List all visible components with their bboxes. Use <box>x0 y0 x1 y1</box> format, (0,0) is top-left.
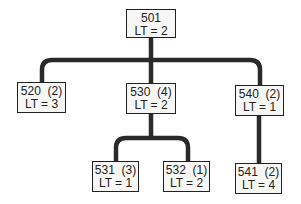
node-501: 501 LT = 2 <box>126 9 176 38</box>
node-lt: LT = 1 <box>93 177 138 190</box>
node-lt: LT = 2 <box>164 177 209 190</box>
edge-530-branch <box>116 138 188 162</box>
node-541: 541 (2) LT = 4 <box>235 163 282 194</box>
node-lt: LT = 2 <box>127 99 175 112</box>
node-lt: LT = 1 <box>236 101 283 114</box>
node-530: 530 (4) LT = 2 <box>126 83 176 114</box>
node-lt: LT = 4 <box>236 179 281 192</box>
node-532: 532 (1) LT = 2 <box>163 161 210 192</box>
node-531: 531 (3) LT = 1 <box>92 161 139 192</box>
node-lt: LT = 2 <box>127 25 175 38</box>
node-520: 520 (2) LT = 3 <box>17 82 66 113</box>
node-540: 540 (2) LT = 1 <box>235 85 284 116</box>
node-lt: LT = 3 <box>18 98 65 111</box>
